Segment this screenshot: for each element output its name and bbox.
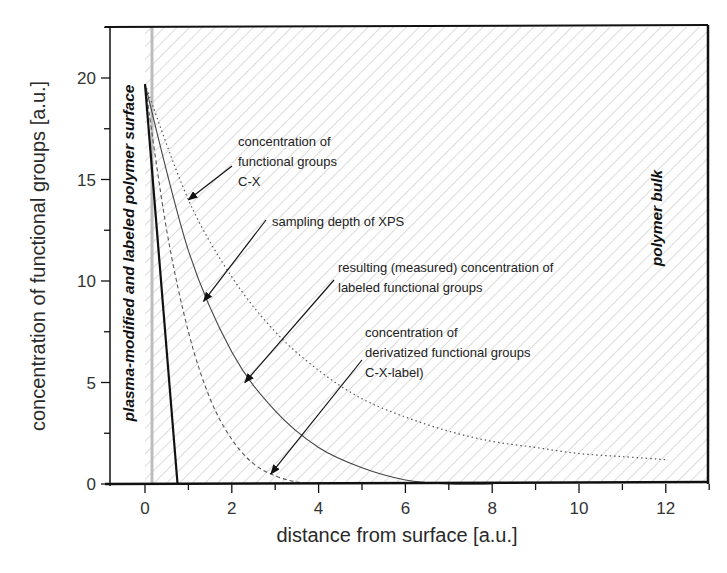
x-tick-label: 8	[487, 499, 496, 518]
bulk-region-label: polymer bulk	[648, 168, 665, 267]
y-tick-label: 10	[77, 272, 96, 291]
annot-line: concentration of	[365, 325, 458, 340]
annot-line: C-X	[238, 174, 261, 189]
annot-line: resulting (measured) concentration of	[338, 260, 554, 275]
surface-region-label: plasma-modified and labeled polymer surf…	[120, 84, 137, 422]
annot-line: concentration of	[238, 134, 331, 149]
y-tick-label: 20	[77, 69, 96, 88]
y-axis-ticks: 05101520	[77, 27, 110, 494]
x-tick-label: 4	[314, 499, 323, 518]
frame-top	[105, 25, 708, 27]
annot-line: derivatized functional groups	[365, 345, 531, 360]
annot-line: labeled functional groups	[338, 280, 483, 295]
y-tick-label: 0	[87, 475, 96, 494]
y-tick-label: 5	[87, 374, 96, 393]
x-axis-title: distance from surface [a.u.]	[276, 524, 517, 546]
x-tick-label: 0	[140, 499, 149, 518]
annot-line: C-X-label)	[365, 365, 424, 380]
x-tick-label: 2	[227, 499, 236, 518]
bulk-region	[145, 27, 708, 484]
x-axis-ticks: 024681012	[140, 484, 709, 518]
x-tick-label: 6	[401, 499, 410, 518]
annotation-sampling-depth: sampling depth of XPS	[272, 214, 405, 229]
x-tick-label: 12	[656, 499, 675, 518]
chart: 024681012 05101520 distance from surface…	[0, 0, 727, 573]
x-tick-label: 10	[570, 499, 589, 518]
y-tick-label: 15	[77, 171, 96, 190]
annot-line: functional groups	[238, 154, 338, 169]
y-axis-title: concentration of functional groups [a.u.…	[27, 81, 49, 431]
